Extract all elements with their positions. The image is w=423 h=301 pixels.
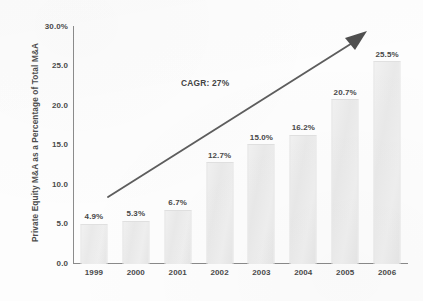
x-tick-label: 2005 bbox=[336, 268, 354, 277]
x-tick-label: 2006 bbox=[378, 268, 396, 277]
bar-value-label: 12.7% bbox=[208, 151, 231, 160]
x-tick-label: 2003 bbox=[252, 268, 270, 277]
bar-value-label: 16.2% bbox=[292, 123, 315, 132]
bar[interactable] bbox=[80, 224, 107, 264]
y-tick-label: 0.0 bbox=[24, 259, 68, 268]
bar[interactable] bbox=[164, 210, 191, 264]
bar-value-label: 15.0% bbox=[250, 133, 273, 142]
bar[interactable] bbox=[248, 144, 275, 264]
y-tick-label: 20.0 bbox=[24, 101, 68, 110]
bar-value-label: 5.3% bbox=[126, 209, 145, 218]
y-tick-label: 5.0 bbox=[24, 219, 68, 228]
bar-group: 20.7% bbox=[324, 26, 366, 264]
bar-value-label: 4.9% bbox=[85, 212, 104, 221]
x-tick-label: 1999 bbox=[85, 268, 103, 277]
bar-group: 15.0% bbox=[241, 26, 283, 264]
bar[interactable] bbox=[290, 135, 317, 265]
chart-container: Private Equity M&A as a Percentage of To… bbox=[0, 0, 423, 301]
plot-area: 4.9% 5.3% 6.7% 12.7% 15.0% 16.2% 20.7% bbox=[73, 26, 408, 264]
bar[interactable] bbox=[206, 162, 233, 264]
bar-value-label: 20.7% bbox=[334, 88, 357, 97]
bar-group: 5.3% bbox=[115, 26, 157, 264]
x-tick-label: 2004 bbox=[294, 268, 312, 277]
x-tick-label: 2001 bbox=[169, 268, 187, 277]
bar-group: 6.7% bbox=[157, 26, 199, 264]
bar[interactable] bbox=[332, 99, 359, 264]
bar-group: 16.2% bbox=[282, 26, 324, 264]
bar-value-label: 25.5% bbox=[375, 50, 398, 59]
y-axis-tick-labels: 30.0% 25.0 20.0 15.0 10.0 5.0 0.0 bbox=[22, 0, 68, 301]
y-tick-label: 30.0% bbox=[24, 22, 68, 31]
y-tick-label: 15.0 bbox=[24, 140, 68, 149]
x-tick-label: 2000 bbox=[127, 268, 145, 277]
y-tick-label: 25.0 bbox=[24, 61, 68, 70]
x-axis-tick-labels: 1999 2000 2001 2002 2003 2004 2005 2006 bbox=[73, 268, 408, 286]
bar-value-label: 6.7% bbox=[168, 198, 187, 207]
bar-group: 25.5% bbox=[366, 26, 408, 264]
bar[interactable] bbox=[374, 61, 401, 264]
bar-group: 12.7% bbox=[199, 26, 241, 264]
cagr-annotation-label: CAGR: 27% bbox=[181, 78, 229, 88]
bar[interactable] bbox=[122, 221, 149, 264]
y-tick-label: 10.0 bbox=[24, 180, 68, 189]
bar-group: 4.9% bbox=[73, 26, 115, 264]
x-tick-label: 2002 bbox=[210, 268, 228, 277]
